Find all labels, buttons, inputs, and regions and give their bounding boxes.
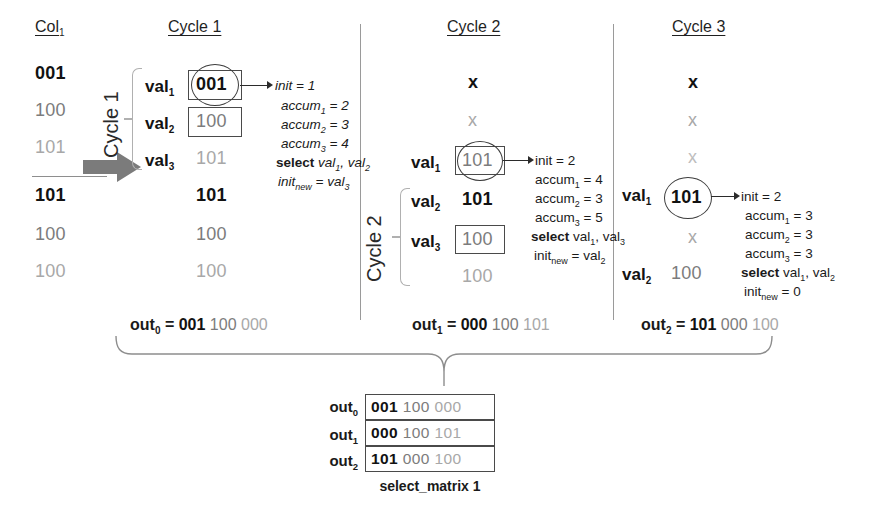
cycle1-ann-init: init = 1 bbox=[275, 79, 315, 93]
cycle2-mark-1: x bbox=[468, 110, 477, 131]
cycle3-mark-0: x bbox=[688, 72, 698, 93]
outputs-to-matrix-brace bbox=[110, 334, 790, 396]
cycle2-row-label-2: val2 bbox=[411, 192, 440, 213]
cycle3-ann-initnew: initnew = 0 bbox=[744, 285, 801, 302]
cycle2-value-1: 101 bbox=[462, 150, 493, 171]
cycle1-value-2: 100 bbox=[196, 111, 227, 132]
cycle2-bracket-tick bbox=[392, 236, 401, 238]
cycle1-row-label-2: val2 bbox=[145, 114, 174, 135]
cycle2-mark-0: x bbox=[468, 72, 478, 93]
cycle3-value-2: 100 bbox=[671, 263, 702, 284]
header-cycle-3: Cycle 3 bbox=[672, 18, 725, 36]
header-cycle-2: Cycle 2 bbox=[447, 18, 500, 36]
cycle3-mark-2: x bbox=[688, 147, 697, 168]
cycle1-ann-initnew: initnew = val3 bbox=[278, 175, 349, 192]
cycle1-bracket bbox=[132, 68, 142, 170]
cycle3-ann-select: select val1, val2 bbox=[741, 266, 835, 283]
cycle3-value-1: 101 bbox=[671, 187, 702, 208]
cycle1-row-label-3: val3 bbox=[145, 151, 174, 172]
matrix-cell-2: 101 000 100 bbox=[365, 446, 495, 472]
cycle3-row-label-1: val1 bbox=[622, 186, 651, 207]
cycle1-ann-select: select val1, val2 bbox=[276, 156, 370, 173]
cycle2-value-2: 101 bbox=[462, 189, 493, 210]
cycle2-tail-0: 100 bbox=[462, 266, 493, 287]
cycle2-annotation-arrowhead bbox=[528, 156, 534, 164]
cycle1-tail-0: 101 bbox=[196, 185, 227, 206]
col1-value-3: 101 bbox=[35, 185, 66, 206]
cycle1-ann-accum2: accum2 = 3 bbox=[281, 118, 349, 135]
col1-value-4: 100 bbox=[35, 224, 66, 245]
cycle1-tail-1: 100 bbox=[196, 224, 227, 245]
cycle3-ann-accum2: accum2 = 3 bbox=[745, 228, 813, 245]
cycle3-ann-init: init = 2 bbox=[741, 190, 781, 204]
col1-value-1: 100 bbox=[35, 100, 66, 121]
cycle3-mark-1: x bbox=[688, 110, 697, 131]
cycle2-ann-init: init = 2 bbox=[535, 154, 575, 168]
cycle3-row-label-2: val2 bbox=[622, 265, 651, 286]
cycle3-annotation-connector bbox=[711, 196, 735, 197]
col1-value-0: 001 bbox=[35, 63, 66, 84]
cycle2-row-label-1: val1 bbox=[411, 153, 440, 174]
cycle2-ann-accum3: accum3 = 5 bbox=[535, 211, 603, 228]
matrix-row-label-0: out0 bbox=[288, 398, 358, 418]
matrix-caption: select_matrix 1 bbox=[365, 478, 495, 494]
cycle1-tail-2: 100 bbox=[196, 261, 227, 282]
cycle1-row-label-1: val1 bbox=[145, 77, 174, 98]
cycle2-ann-initnew: initnew = val2 bbox=[534, 249, 605, 266]
cycle3-mid-mark: x bbox=[688, 227, 697, 248]
cycle1-annotation-connector bbox=[240, 85, 268, 86]
cycle3-ann-accum3: accum3 = 3 bbox=[745, 247, 813, 264]
cycle2-annotation-connector bbox=[503, 160, 529, 161]
matrix-row-label-2: out2 bbox=[288, 452, 358, 472]
cycle1-ann-accum3: accum3 = 4 bbox=[281, 137, 349, 154]
cycle3-annotation-arrowhead bbox=[734, 192, 740, 200]
cycle2-bracket bbox=[400, 188, 410, 286]
col1-value-2: 101 bbox=[35, 137, 66, 158]
header-col1: Col1 bbox=[35, 18, 65, 38]
cycle3-ann-accum1: accum1 = 3 bbox=[745, 209, 813, 226]
cycle1-bracket-tick bbox=[124, 118, 133, 120]
cycle2-ann-accum1: accum1 = 4 bbox=[535, 173, 603, 190]
header-cycle-1: Cycle 1 bbox=[168, 18, 221, 36]
cycle2-rotated-label: Cycle 2 bbox=[363, 215, 386, 282]
col1-value-5: 100 bbox=[35, 261, 66, 282]
cycle2-row-label-3: val3 bbox=[411, 232, 440, 253]
cycle1-rotated-label: Cycle 1 bbox=[100, 91, 123, 158]
cycle1-annotation-arrowhead bbox=[267, 81, 273, 89]
cycle2-ann-accum2: accum2 = 3 bbox=[535, 192, 603, 209]
cycle1-ann-accum1: accum1 = 2 bbox=[281, 99, 349, 116]
divider-cycle2-cycle3 bbox=[613, 24, 614, 320]
cycle2-ann-select: select val1, val3 bbox=[531, 230, 625, 247]
matrix-row-label-1: out1 bbox=[288, 426, 358, 446]
matrix-cell-1: 000 100 101 bbox=[365, 420, 495, 446]
matrix-cell-0: 001 100 000 bbox=[365, 394, 495, 420]
cycle1-value-3: 101 bbox=[196, 148, 227, 169]
cycle1-value-1: 001 bbox=[196, 74, 227, 95]
cycle2-value-3: 100 bbox=[462, 229, 493, 250]
